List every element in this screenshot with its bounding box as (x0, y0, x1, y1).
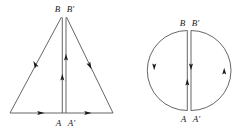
triangle-label-top-right: B' (67, 4, 75, 14)
figure-canvas: B B' A A' B B' A A' (0, 0, 248, 130)
triangle-label-top-left: B (55, 4, 61, 14)
circle-label-top-right: B' (192, 18, 200, 28)
circle-label-bottom-right: A' (192, 114, 201, 124)
circle-label-bottom-left: A (180, 114, 187, 124)
triangle-label-bottom-right: A' (67, 118, 76, 128)
circle-label-top-left: B (180, 18, 186, 28)
triangle-label-bottom-left: A (55, 118, 62, 128)
